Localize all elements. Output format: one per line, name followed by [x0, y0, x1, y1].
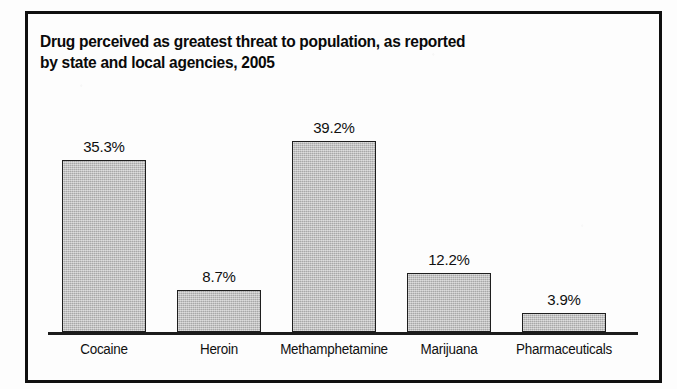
bar-value-label: 35.3% — [48, 138, 160, 155]
chart-title: Drug perceived as greatest threat to pop… — [40, 31, 585, 73]
plot-area: 35.3%8.7%39.2%12.2%3.9% — [48, 120, 640, 335]
category-label-cocaine: Cocaine — [40, 341, 169, 357]
x-axis-line — [48, 332, 638, 335]
bar-cocaine — [62, 160, 146, 332]
cropped-caption-bleed — [90, 384, 590, 389]
category-axis-labels: CocaineHeroinMethamphetamineMarijuanaPha… — [48, 341, 640, 365]
chart-screenshot: Drug perceived as greatest threat to pop… — [0, 0, 677, 389]
bar-value-label: 3.9% — [508, 291, 620, 308]
category-label-heroin: Heroin — [155, 341, 284, 357]
bar-series: 35.3%8.7%39.2%12.2%3.9% — [48, 120, 638, 332]
bar-value-label: 39.2% — [278, 119, 390, 136]
category-label-marijuana: Marijuana — [385, 341, 514, 357]
bar-heroin — [177, 290, 261, 332]
bar-methamphetamine — [292, 141, 376, 332]
chart-title-line-2: by state and local agencies, 2005 — [40, 52, 585, 73]
chart-title-line-1: Drug perceived as greatest threat to pop… — [40, 31, 585, 52]
category-label-pharmaceuticals: Pharmaceuticals — [500, 341, 629, 357]
bar-value-label: 8.7% — [163, 268, 275, 285]
bar-pharmaceuticals — [522, 313, 606, 332]
bar-value-label: 12.2% — [393, 251, 505, 268]
bar-marijuana — [407, 273, 491, 332]
category-label-methamphetamine: Methamphetamine — [270, 341, 399, 357]
